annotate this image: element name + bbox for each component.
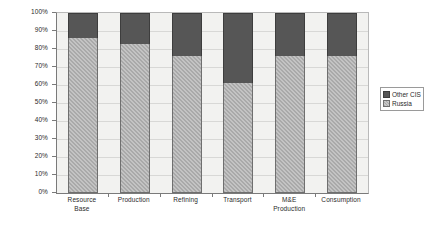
y-axis-label-90: 90% — [35, 26, 48, 33]
x-axis-label-line2: Production — [263, 205, 315, 214]
y-axis-label-70: 70% — [35, 62, 48, 69]
x-axis-label-line1: Refining — [160, 196, 212, 205]
bar-column-refining — [172, 13, 202, 193]
x-axis-label-line1: M&E — [263, 196, 315, 205]
x-axis-label-transport: Transport — [211, 196, 263, 224]
x-axis-label-line1: Consumption — [315, 196, 367, 205]
bar-column-transport — [223, 13, 253, 193]
bar-column-resource-base — [68, 13, 98, 193]
bar-segment-russia — [275, 56, 305, 193]
y-axis-label-80: 80% — [35, 44, 48, 51]
x-axis-label-line1: Resource — [56, 196, 108, 205]
bar-segment-russia — [68, 38, 98, 193]
x-axis-label-resource-base: Resource Base — [56, 196, 108, 224]
legend-label: Other CIS — [392, 91, 421, 99]
y-axis-label-30: 30% — [35, 134, 48, 141]
x-axis-label-production: Production — [108, 196, 160, 224]
x-axis-label-line2: Base — [56, 205, 108, 214]
bar-segment-other-cis — [275, 13, 305, 56]
bar-segment-other-cis — [327, 13, 357, 56]
bar-series-group — [57, 13, 368, 193]
y-axis-label-50: 50% — [35, 98, 48, 105]
bar-column-me-production — [275, 13, 305, 193]
bar-column-production — [120, 13, 150, 193]
x-axis-label-consumption: Consumption — [315, 196, 367, 224]
bar-segment-russia — [120, 44, 150, 193]
y-axis-label-0: 0% — [38, 188, 48, 195]
x-axis-label-line1: Transport — [211, 196, 263, 205]
y-axis-label-20: 20% — [35, 152, 48, 159]
legend-swatch-icon — [383, 100, 390, 107]
y-axis: 100% 90% 80% 70% 60% 50% 40% 30% 20% 10%… — [0, 0, 54, 205]
plot-area — [56, 12, 369, 194]
bar-column-consumption — [327, 13, 357, 193]
y-axis-label-10: 10% — [35, 170, 48, 177]
bar-segment-russia — [223, 83, 253, 193]
y-axis-label-60: 60% — [35, 80, 48, 87]
x-axis-label-me-production: M&E Production — [263, 196, 315, 224]
legend-item-russia: Russia — [383, 99, 421, 108]
bar-segment-russia — [172, 56, 202, 193]
legend-item-other-cis: Other CIS — [383, 90, 421, 99]
bar-segment-other-cis — [223, 13, 253, 83]
bar-segment-russia — [327, 56, 357, 193]
x-axis-label-refining: Refining — [160, 196, 212, 224]
x-axis-label-line1: Production — [108, 196, 160, 205]
bar-segment-other-cis — [68, 13, 98, 38]
y-axis-label-100: 100% — [31, 8, 48, 15]
chart-legend: Other CIS Russia — [380, 87, 424, 111]
stacked-bar-chart: 100% 90% 80% 70% 60% 50% 40% 30% 20% 10%… — [0, 0, 439, 225]
bar-segment-other-cis — [120, 13, 150, 44]
legend-label: Russia — [392, 100, 412, 108]
y-axis-label-40: 40% — [35, 116, 48, 123]
legend-swatch-icon — [383, 91, 390, 98]
bar-segment-other-cis — [172, 13, 202, 56]
x-axis: Resource Base Production Refining Transp… — [56, 196, 367, 224]
